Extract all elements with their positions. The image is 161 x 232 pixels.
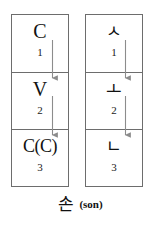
structure-index-2: 2 [12, 104, 68, 117]
structure-cell-2: V 2 [12, 73, 68, 131]
structure-cell-1: C 1 [12, 15, 68, 73]
example-jamo-coda: ㄴ [86, 133, 142, 159]
example-jamo-onset: ㅅ [86, 18, 142, 44]
caption-romanization: (son) [79, 198, 102, 210]
structure-index-1: 1 [12, 46, 68, 59]
syllable-structure-figure: C 1 V 2 C(C) 3 ㅅ 1 ㅗ 2 ㄴ 3 [0, 0, 161, 232]
example-index-2: 2 [86, 104, 142, 117]
example-jamo-nucleus: ㅗ [86, 76, 142, 102]
structure-symbol-nucleus: V [12, 76, 68, 102]
figure-caption: 손(son) [0, 194, 161, 214]
example-index-3: 3 [86, 161, 142, 174]
abstract-structure-column: C 1 V 2 C(C) 3 [11, 14, 69, 187]
structure-cell-3: C(C) 3 [12, 130, 68, 188]
structure-symbol-coda: C(C) [12, 133, 68, 159]
example-cell-1: ㅅ 1 [86, 15, 142, 73]
structure-index-3: 3 [12, 161, 68, 174]
caption-hangul-syllable: 손 [58, 194, 74, 214]
structure-symbol-onset: C [12, 18, 68, 44]
example-index-1: 1 [86, 46, 142, 59]
example-cell-3: ㄴ 3 [86, 130, 142, 188]
hangul-example-column: ㅅ 1 ㅗ 2 ㄴ 3 [85, 14, 143, 187]
example-cell-2: ㅗ 2 [86, 73, 142, 131]
